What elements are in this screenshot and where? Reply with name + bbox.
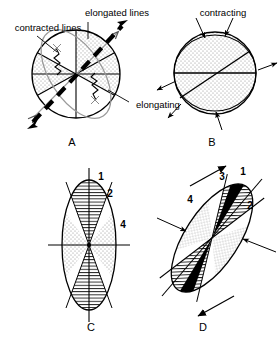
strain-ellipse-figure: elongated lines contracted lines elongat…	[0, 0, 280, 345]
panel-c-sector-number-4: 4	[120, 219, 126, 230]
panel-d-sector-number-1: 1	[240, 166, 246, 177]
panel-label-c: C	[87, 321, 95, 333]
panel-label-b: B	[208, 136, 215, 148]
panel-label-d: D	[199, 321, 207, 333]
panel-c: 1 2 4 C	[48, 168, 130, 333]
panel-c-center-dot	[87, 243, 91, 247]
panel-d-sector-number-4: 4	[187, 194, 193, 205]
panel-d-sector-number-3: 3	[219, 171, 225, 182]
panel-d: 1 2 3 4 D	[156, 166, 276, 333]
figure-container: elongated lines contracted lines elongat…	[0, 0, 280, 345]
panel-d-sector-number-2: 2	[247, 200, 253, 211]
label-contracted-lines: contracted lines	[15, 22, 82, 33]
panel-b: contracting B	[157, 7, 277, 148]
label-contracting: contracting	[200, 7, 246, 18]
label-elongated-lines: elongated lines	[85, 7, 149, 18]
label-elongating: elongating	[136, 99, 180, 110]
panel-a: elongated lines contracted lines elongat…	[15, 7, 180, 148]
panel-c-sector-number-2: 2	[107, 188, 113, 199]
panel-label-a: A	[68, 136, 76, 148]
panel-c-sector-number-1: 1	[98, 171, 104, 182]
